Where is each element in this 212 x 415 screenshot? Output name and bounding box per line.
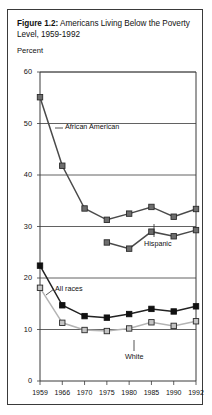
data-point-marker — [171, 309, 176, 314]
data-point-marker — [193, 304, 198, 309]
data-point-marker — [149, 320, 154, 325]
y-axis-tick-label: 40 — [16, 170, 32, 179]
data-point-marker — [82, 313, 87, 318]
data-point-marker — [60, 320, 65, 325]
data-point-marker — [37, 95, 42, 100]
data-point-marker — [149, 306, 154, 311]
data-point-marker — [104, 328, 109, 333]
annotation-all-races: All races — [55, 284, 83, 293]
y-axis-tick-label: 50 — [16, 119, 32, 128]
y-axis-tick-label: 20 — [16, 273, 32, 282]
series-line — [40, 97, 196, 220]
annotation-hispanic: Hispanic — [144, 239, 172, 248]
data-point-marker — [60, 303, 65, 308]
data-point-marker — [104, 315, 109, 320]
data-point-marker — [193, 319, 198, 324]
figure-card: Figure 1.2: Americans Living Below the P… — [7, 9, 203, 405]
data-point-marker — [37, 263, 42, 268]
data-point-marker — [149, 229, 154, 234]
data-point-marker — [193, 206, 198, 211]
data-point-marker — [126, 326, 131, 331]
annotation-leader-line — [46, 289, 54, 295]
y-axis-tick-label: 0 — [16, 376, 32, 385]
y-axis-tick-label: 60 — [16, 67, 32, 76]
data-point-marker — [60, 163, 65, 168]
data-point-marker — [126, 311, 131, 316]
annotation-white: White — [125, 352, 143, 361]
data-point-marker — [104, 217, 109, 222]
y-axis-tick-label: 30 — [16, 222, 32, 231]
data-point-marker — [82, 327, 87, 332]
y-axis-tick-label: 10 — [16, 325, 32, 334]
data-point-marker — [37, 285, 42, 290]
data-point-marker — [171, 214, 176, 219]
x-axis-tick-label: 1992 — [183, 389, 209, 396]
data-point-marker — [104, 240, 109, 245]
data-point-marker — [82, 206, 87, 211]
annotation-african-american: African American — [65, 122, 119, 131]
data-point-marker — [126, 211, 131, 216]
chart-svg — [8, 10, 204, 406]
data-point-marker — [193, 227, 198, 232]
data-point-marker — [126, 246, 131, 251]
chart-plot-area: 0102030405060195919661970197519801985199… — [8, 10, 204, 406]
data-point-marker — [149, 204, 154, 209]
data-point-marker — [171, 323, 176, 328]
